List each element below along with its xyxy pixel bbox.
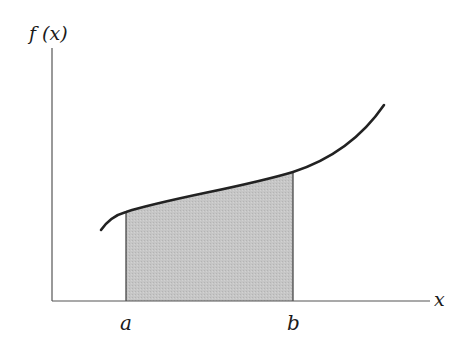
- lower-bound-label-a: a: [120, 311, 132, 335]
- integral-diagram: f (x) x a b: [0, 0, 464, 342]
- x-axis-label: x: [434, 288, 445, 310]
- upper-bound-label-b: b: [287, 311, 300, 335]
- y-axis-label: f (x): [27, 22, 68, 44]
